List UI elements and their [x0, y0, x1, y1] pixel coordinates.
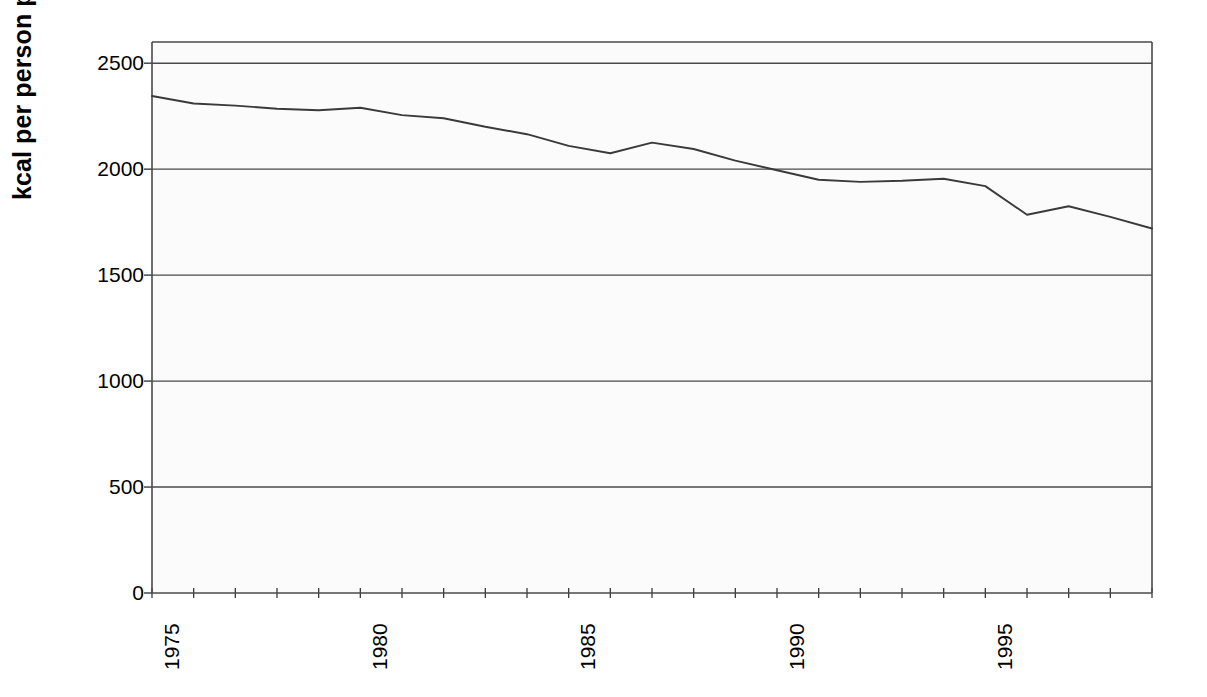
chart-figure: kcal per person per day 0500100015002000…	[0, 0, 1207, 697]
plot-bg-rect	[152, 42, 1152, 593]
plot-background	[152, 42, 1152, 593]
plot-area	[0, 0, 1207, 697]
